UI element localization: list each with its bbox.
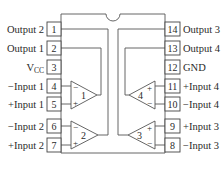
pin-13: 13 Output 4 [165,41,221,55]
pin-14-label: Output 3 [183,24,220,35]
pin-7: 7 +Input 2 [8,138,61,152]
op-amp-2: − + 2 [71,121,98,149]
pin-7-number: 7 [52,140,57,151]
pin-12-label: GND [183,62,206,73]
pin-14: 14 Output 3 [165,22,220,36]
pin-1: 1 Output 2 [7,22,61,36]
pin-6: 6 −Input 2 [8,119,61,133]
amp-3-bottom-sign: − [147,138,152,148]
amp-1-label: 1 [81,90,86,101]
amp-4-label: 4 [138,90,143,101]
pin-12: 12 GND [165,60,206,74]
op-amp-1: − + 1 [71,81,97,109]
pin-8-label: −Input 3 [183,140,219,151]
pin-2: 2 Output 1 [7,41,61,55]
pin-6-label: −Input 2 [8,121,44,132]
pin-9-label: +Input 3 [183,121,219,132]
pin-11-label: +Input 4 [183,81,220,92]
amp-2-label: 2 [81,130,86,141]
pin-5-number: 5 [52,99,57,110]
amp-2-top-sign: − [73,122,78,132]
pin-10-label: −Input 4 [183,99,220,110]
pin-5: 5 +Input 1 [8,97,61,111]
pin-2-label: Output 1 [7,43,44,54]
pin-11-number: 11 [168,81,178,92]
pin-4-label: −Input 1 [8,81,44,92]
op-amp-4: + − 4 [129,81,155,109]
amp-4-top-sign: + [147,83,152,93]
pin-4: 4 −Input 1 [8,79,61,93]
op-amp-3: + − 3 [128,121,155,149]
amp-3-top-sign: + [147,123,152,133]
vcc-label-sub: CC [34,66,44,75]
amp-2-bottom-sign: + [73,138,78,148]
amp-1-top-sign: − [73,82,78,92]
pin-8: 8 −Input 3 [165,138,219,152]
pin-3-label: VCC [26,62,44,75]
pin-10-number: 10 [168,99,178,110]
pin-1-label: Output 2 [7,24,44,35]
pin-6-number: 6 [52,121,57,132]
ic-pinout-diagram: − + 1 − + 2 + − 4 + − 3 1 Output 2 2 Out… [0,0,222,173]
pin-10: 10 −Input 4 [165,97,220,111]
pin-9-number: 9 [170,121,175,132]
pin-9: 9 +Input 3 [165,119,219,133]
pin-7-label: +Input 2 [8,140,44,151]
pin-12-number: 12 [168,62,178,73]
pin-14-number: 14 [168,24,178,35]
pin-8-number: 8 [170,140,175,151]
amp-4-bottom-sign: − [147,98,152,108]
amp-1-bottom-sign: + [73,98,78,108]
pin-5-label: +Input 1 [8,99,44,110]
pin-3-number: 3 [52,62,57,73]
pin-2-number: 2 [52,43,57,54]
pin-1-number: 1 [52,24,57,35]
amp-3-label: 3 [137,130,142,141]
pin-11: 11 +Input 4 [165,79,220,93]
pin-3: 3 VCC [26,60,61,75]
pin-13-number: 13 [168,43,178,54]
pin-4-number: 4 [52,81,57,92]
pin-13-label: Output 4 [183,43,221,54]
